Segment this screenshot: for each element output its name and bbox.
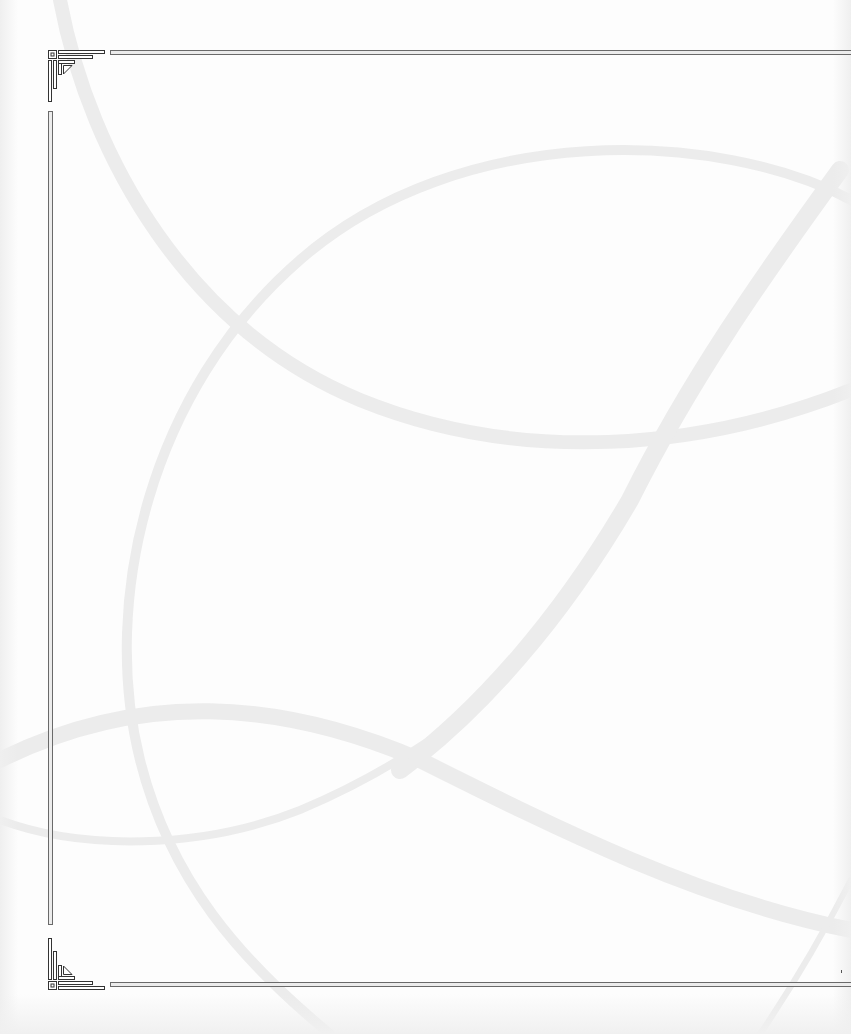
corner-ornament-top-left-icon xyxy=(46,48,106,104)
left-edge-shade xyxy=(0,0,18,1034)
swoosh-upper-arc xyxy=(60,0,851,442)
swoosh-lower-left-loop xyxy=(0,740,430,841)
frame-bottom-line xyxy=(110,982,851,987)
swoosh-diagonal-ribbon xyxy=(400,170,840,770)
corner-ornament-bottom-left-icon xyxy=(46,936,106,992)
background-swoosh-decoration xyxy=(0,0,851,1034)
right-edge-shade xyxy=(833,0,851,1034)
frame-left-line xyxy=(48,111,53,925)
blank-page xyxy=(0,0,851,1034)
stray-mark xyxy=(841,970,842,973)
frame-top-line xyxy=(110,50,851,55)
bottom-edge-shade xyxy=(0,994,851,1034)
